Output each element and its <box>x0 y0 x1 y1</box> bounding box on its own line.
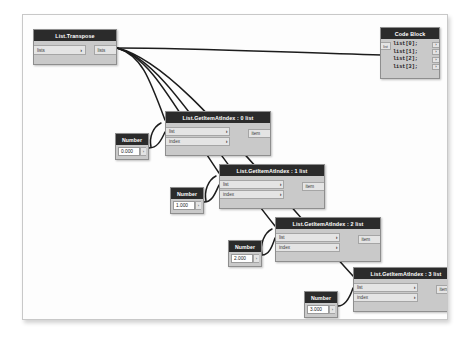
node-footer <box>220 203 324 208</box>
input-port-list[interactable]: list <box>381 42 391 50</box>
number-input[interactable]: 1.000 <box>173 201 195 210</box>
chevron-right-icon: › <box>414 293 416 302</box>
node-get-item-at-index-1[interactable]: List.GetItemAtIndex : 1 list list › item… <box>219 164 325 209</box>
node-get-item-at-index-2[interactable]: List.GetItemAtIndex : 2 list list › item… <box>275 217 381 262</box>
output-port[interactable]: › <box>432 57 439 63</box>
node-title: Number <box>116 134 148 145</box>
port-label: list <box>357 283 363 292</box>
node-body: list › item index › <box>220 176 324 203</box>
input-port-lists[interactable]: lists › <box>34 45 86 55</box>
node-footer <box>166 150 270 155</box>
input-port-index[interactable]: index › <box>166 137 230 146</box>
node-body: list › item index › <box>166 123 270 150</box>
code-line[interactable]: list[0]; › <box>393 41 439 49</box>
port-row: index › <box>220 190 324 199</box>
chevron-right-icon: › <box>336 243 338 252</box>
node-footer <box>354 306 448 311</box>
port-label: list <box>279 233 285 242</box>
node-title: List.GetItemAtIndex : 3 list <box>354 268 448 279</box>
node-title: List.GetItemAtIndex : 0 list <box>166 112 270 123</box>
node-footer <box>276 256 380 261</box>
output-port[interactable]: › <box>432 64 439 70</box>
port-label: list <box>169 127 175 136</box>
wire-number0-to-getitem0-index <box>149 132 165 148</box>
node-body: 0.000 › <box>116 145 148 159</box>
node-number-1[interactable]: Number 1.000 › <box>170 187 204 214</box>
node-get-item-at-index-0[interactable]: List.GetItemAtIndex : 0 list list › item… <box>165 111 271 156</box>
input-port-list[interactable]: list › <box>220 180 284 189</box>
port-label: index <box>357 293 368 302</box>
port-label: lists <box>98 48 106 53</box>
node-title: Number <box>229 241 261 252</box>
input-port-list[interactable]: list › <box>354 283 418 292</box>
output-port[interactable]: › <box>432 42 439 48</box>
input-port-index[interactable]: index › <box>220 190 284 199</box>
dynamo-graph-editor: List.Transpose lists › lists Code Block … <box>0 0 461 337</box>
input-port-list[interactable]: list › <box>166 127 230 136</box>
number-input[interactable]: 3.000 <box>307 305 329 314</box>
code-line[interactable]: list[2]; › <box>393 56 439 64</box>
code-text: list[0]; <box>393 41 418 49</box>
node-list-transpose[interactable]: List.Transpose lists › lists <box>33 29 117 65</box>
port-label: index <box>223 190 234 199</box>
port-label: index <box>279 243 290 252</box>
wire-number3-to-getitem3-index <box>338 288 353 306</box>
wire-getitem1-item-out <box>205 176 216 201</box>
port-row: lists › lists <box>34 45 116 55</box>
node-title: List.GetItemAtIndex : 2 list <box>276 218 380 229</box>
number-input[interactable]: 2.000 <box>231 254 253 263</box>
chevron-right-icon: › <box>80 46 82 55</box>
graph-canvas[interactable]: List.Transpose lists › lists Code Block … <box>22 14 448 320</box>
chevron-right-icon: › <box>414 283 416 292</box>
number-input[interactable]: 0.000 <box>118 147 140 156</box>
code-text: list[3]; <box>393 64 418 72</box>
port-label: list <box>223 180 229 189</box>
port-row: list › item <box>276 233 380 242</box>
port-row: index › <box>354 293 448 302</box>
code-line[interactable]: list[1]; › <box>393 49 439 57</box>
node-title: Number <box>305 292 337 303</box>
input-port-index[interactable]: index › <box>276 243 340 252</box>
wire-number2-to-getitem2-index <box>262 238 275 255</box>
port-label: lists <box>37 48 45 53</box>
node-number-3[interactable]: Number 3.000 › <box>304 291 338 318</box>
node-title: Number <box>171 188 203 199</box>
node-body: 1.000 › <box>171 199 203 213</box>
node-body: list list[0]; › list[1]; › list[2]; › <box>381 39 439 73</box>
port-row: index › <box>166 137 270 146</box>
port-row: index › <box>276 243 380 252</box>
wire-getitem2-item-out <box>261 229 272 254</box>
chevron-right-icon: › <box>280 190 282 199</box>
code-text: list[2]; <box>393 56 418 64</box>
output-port[interactable]: › <box>195 201 201 210</box>
port-row: list › item <box>166 127 270 136</box>
chevron-right-icon: › <box>226 127 228 136</box>
port-row: list › item <box>354 283 448 292</box>
code-lines: list[0]; › list[1]; › list[2]; › list[3]… <box>391 41 439 71</box>
output-port[interactable]: › <box>140 147 146 156</box>
node-number-0[interactable]: Number 0.000 › <box>115 133 149 160</box>
chevron-right-icon: › <box>280 180 282 189</box>
wire-getitem0-item-out <box>150 123 161 147</box>
wire-number1-to-getitem1-index <box>204 185 219 202</box>
node-title: List.GetItemAtIndex : 1 list <box>220 165 324 176</box>
wire-transpose-to-getitem0-list <box>117 48 165 120</box>
node-title: List.Transpose <box>34 30 116 41</box>
node-footer <box>34 59 116 64</box>
output-port[interactable]: › <box>329 305 335 314</box>
node-get-item-at-index-3[interactable]: List.GetItemAtIndex : 3 list list › item… <box>353 267 448 312</box>
node-code-block[interactable]: Code Block list list[0]; › list[1]; › li… <box>380 27 440 79</box>
code-text: list[1]; <box>393 49 418 57</box>
node-number-2[interactable]: Number 2.000 › <box>228 240 262 267</box>
output-port[interactable]: › <box>432 49 439 55</box>
chevron-right-icon: › <box>226 137 228 146</box>
input-port-index[interactable]: index › <box>354 293 418 302</box>
input-port-list[interactable]: list › <box>276 233 340 242</box>
code-line[interactable]: list[3]; › <box>393 64 439 72</box>
output-port-lists[interactable]: lists <box>94 45 116 55</box>
node-footer <box>381 73 439 78</box>
node-title: Code Block <box>381 28 439 39</box>
output-port[interactable]: › <box>253 254 259 263</box>
node-body: list › item index › <box>276 229 380 256</box>
port-row: list › item <box>220 180 324 189</box>
